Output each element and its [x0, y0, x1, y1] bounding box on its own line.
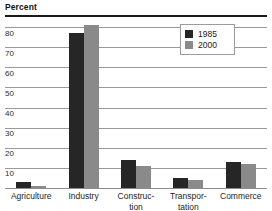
y-tick-label-60: 60 [5, 69, 14, 78]
bar-group [16, 17, 46, 188]
y-tick-label-10: 10 [5, 169, 14, 178]
x-axis-label-agriculture: Agriculture [5, 191, 57, 202]
x-axis-label-industry: Industry [57, 191, 109, 202]
bar-group [121, 17, 151, 188]
legend-item: 1985 [185, 29, 230, 39]
legend-label: 1985 [198, 30, 217, 39]
y-tick-label-70: 70 [5, 49, 14, 58]
bar [226, 162, 241, 188]
bar [188, 180, 203, 188]
bar [136, 166, 151, 188]
y-tick-label-20: 20 [5, 149, 14, 158]
x-axis-label-construction: Construc- tion [110, 191, 162, 211]
bar [173, 178, 188, 188]
x-axis-label-commerce: Commerce [215, 191, 267, 202]
legend-swatch-icon [185, 30, 193, 38]
legend-label: 2000 [198, 41, 217, 50]
bar [121, 160, 136, 188]
bar [84, 25, 99, 188]
legend-item: 2000 [185, 40, 230, 50]
y-tick-label-40: 40 [5, 109, 14, 118]
y-tick-label-50: 50 [5, 89, 14, 98]
y-tick-label-80: 80 [5, 29, 14, 38]
y-tick-label-30: 30 [5, 129, 14, 138]
chart-legend: 19852000 [180, 24, 235, 55]
bar [241, 164, 256, 188]
bar [69, 33, 84, 188]
x-axis-label-transportation: Transpor- tation [162, 191, 214, 211]
bar-group [69, 17, 99, 188]
y-axis-title: Percent [5, 2, 37, 12]
bar-chart: Percent 1020304050607080 AgricultureIndu… [0, 0, 272, 211]
x-axis-baseline [5, 188, 267, 189]
legend-swatch-icon [185, 41, 193, 49]
